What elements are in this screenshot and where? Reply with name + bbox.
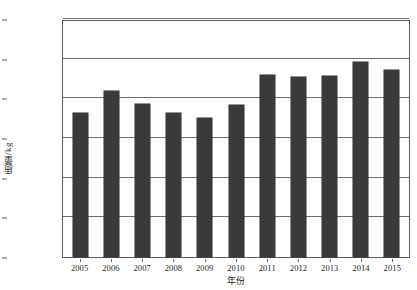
x-axis-tick-label: 2010 (220, 259, 251, 273)
bar (291, 77, 306, 257)
bar (104, 91, 119, 257)
y-axis-tick-mark (2, 99, 7, 100)
bar (135, 104, 150, 257)
x-axis-tick-mark (267, 259, 268, 262)
bar (353, 62, 368, 257)
bar (384, 70, 399, 257)
x-axis-tick-label: 2011 (252, 259, 283, 273)
x-axis-tick-label: 2009 (189, 259, 220, 273)
bar (197, 118, 212, 257)
y-axis-tick-mark (2, 139, 7, 140)
x-axis-tick-label: 2012 (283, 259, 314, 273)
y-axis-tick-mark (2, 178, 7, 179)
bar-slot (252, 21, 283, 257)
y-axis-title: 质量/kg (1, 142, 14, 174)
x-axis-tick-mark (111, 259, 112, 262)
bar (322, 76, 337, 257)
y-axis-tick-mark (2, 20, 7, 21)
x-axis-tick-mark (361, 259, 362, 262)
plot-area (62, 20, 410, 258)
x-axis-tick-mark (392, 259, 393, 262)
bar-slot (96, 21, 127, 257)
bar-chart-figure: 05 000 00010 000 00015 000 00020 000 000… (0, 0, 417, 290)
x-axis-tick-label: 2008 (158, 259, 189, 273)
x-axis-tick-mark (236, 259, 237, 262)
bar (229, 105, 244, 257)
bar-series (63, 21, 409, 257)
bar-slot (376, 21, 407, 257)
bar-slot (345, 21, 376, 257)
y-axis-tick-mark (2, 218, 7, 219)
x-axis-tick-label: 2005 (64, 259, 95, 273)
bar (260, 75, 275, 257)
x-axis-tick-mark (173, 259, 174, 262)
bar-slot (158, 21, 189, 257)
y-axis-tick-mark (2, 258, 7, 259)
x-axis-tick-mark (330, 259, 331, 262)
x-axis-tick-label: 2015 (377, 259, 408, 273)
y-axis-tick-mark (2, 59, 7, 60)
bar-slot (314, 21, 345, 257)
x-axis: 2005200620072008200920102011201220132014… (62, 259, 410, 273)
x-axis-tick-mark (298, 259, 299, 262)
x-axis-title: 年份 (62, 274, 410, 287)
x-axis-tick-mark (80, 259, 81, 262)
x-axis-tick-label: 2006 (95, 259, 126, 273)
bar (73, 113, 88, 257)
x-axis-tick-mark (142, 259, 143, 262)
x-axis-tick-label: 2007 (127, 259, 158, 273)
x-axis-tick-label: 2014 (345, 259, 376, 273)
bar-slot (65, 21, 96, 257)
bar-slot (283, 21, 314, 257)
bar-slot (127, 21, 158, 257)
bar-slot (220, 21, 251, 257)
bar (166, 113, 181, 257)
bar-slot (189, 21, 220, 257)
x-axis-tick-mark (205, 259, 206, 262)
x-axis-tick-label: 2013 (314, 259, 345, 273)
gridline (63, 18, 409, 19)
